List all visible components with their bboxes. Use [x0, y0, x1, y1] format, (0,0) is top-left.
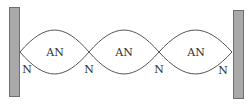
node-label: N — [22, 63, 32, 76]
diagram-canvas: ANANAN NNNN — [0, 0, 250, 105]
antinode-labels: ANANAN — [45, 46, 205, 59]
node-label: N — [84, 63, 94, 76]
right-wall — [234, 11, 244, 99]
node-labels: NNNN — [22, 63, 228, 77]
standing-wave-diagram: ANANAN NNNN — [0, 0, 250, 105]
antinode-label: AN — [114, 46, 133, 59]
antinode-label: AN — [186, 46, 205, 59]
node-label: N — [218, 64, 228, 77]
left-wall — [10, 8, 20, 97]
antinode-label: AN — [45, 46, 64, 59]
node-label: N — [154, 63, 164, 76]
